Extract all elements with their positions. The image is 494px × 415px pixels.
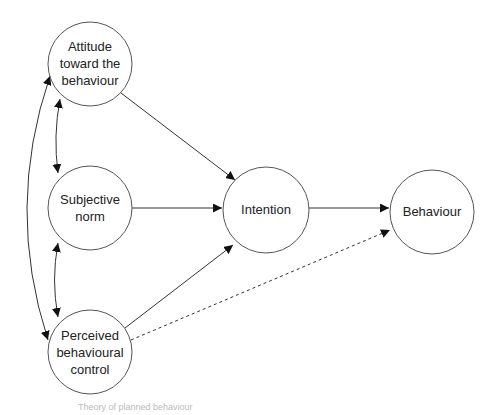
tpb-diagram: Attitude toward the behaviour Subjective…: [0, 0, 494, 415]
edge-attitude-intention: [121, 93, 235, 180]
node-behaviour: Behaviour: [390, 170, 474, 254]
node-pbc-line3: control: [70, 362, 109, 377]
node-attitude-line2: toward the: [60, 56, 121, 71]
node-pbc-line1: Perceived: [61, 328, 119, 343]
node-subjective-norm-line2: norm: [75, 209, 105, 224]
node-pbc-line2: behavioural: [56, 345, 123, 360]
node-pbc: Perceived behavioural control: [48, 310, 132, 394]
node-subjective-norm-line1: Subjective: [60, 192, 120, 207]
node-intention-label: Intention: [241, 202, 291, 217]
figure-caption: Theory of planned behaviour: [78, 402, 193, 412]
node-attitude-line3: behaviour: [61, 73, 119, 88]
node-attitude: Attitude toward the behaviour: [48, 22, 132, 106]
edge-attitude-pbc: [27, 76, 50, 340]
node-behaviour-label: Behaviour: [403, 204, 462, 219]
edge-pbc-intention: [125, 245, 233, 328]
node-intention: Intention: [223, 167, 309, 253]
edge-norm-pbc: [55, 243, 59, 317]
node-subjective-norm: Subjective norm: [48, 166, 132, 250]
node-attitude-line1: Attitude: [68, 39, 112, 54]
edge-attitude-norm: [56, 99, 60, 173]
